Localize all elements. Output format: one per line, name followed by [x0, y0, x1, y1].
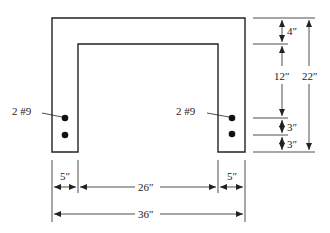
- label-spacing-3a: 3″: [287, 121, 297, 133]
- channel-section-diagram: 2 #9 2 #9 4″ 12″ 3″ 3″ 22″ 5″ 26″ 5″ 36″: [0, 0, 330, 233]
- label-top-4: 4″: [287, 25, 297, 37]
- label-overall-36: 36″: [138, 208, 154, 220]
- label-left-bars: 2 #9: [12, 105, 32, 117]
- rebar-right-bottom: [229, 131, 236, 138]
- label-inner-26: 26″: [138, 181, 154, 193]
- label-height-22: 22″: [302, 70, 318, 82]
- label-spacing-3b: 3″: [287, 138, 297, 150]
- rebar-left-bottom: [62, 132, 69, 139]
- rebar-right-top: [229, 115, 236, 122]
- label-right-5: 5″: [227, 170, 237, 182]
- section-outline: [52, 18, 245, 152]
- label-web-12: 12″: [274, 70, 290, 82]
- right-extension-lines: [253, 18, 315, 152]
- label-left-5: 5″: [60, 170, 70, 182]
- label-right-bars: 2 #9: [176, 105, 196, 117]
- rebar-left-top: [62, 115, 69, 122]
